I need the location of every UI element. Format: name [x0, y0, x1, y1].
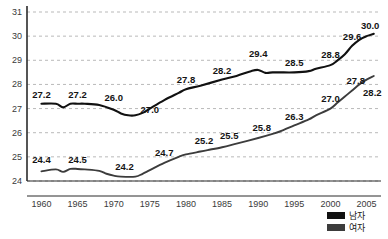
x-tick-label: 1975: [131, 199, 169, 209]
y-tick-label: 24: [2, 176, 22, 186]
data-label-female: 25.5: [212, 131, 246, 141]
data-label-female: 27.8: [339, 76, 373, 86]
data-label-male: 28.8: [313, 50, 347, 60]
data-label-male: 27.2: [61, 90, 95, 100]
x-tick-label: 1985: [203, 199, 241, 209]
data-label-male: 27.0: [133, 105, 167, 115]
y-tick-label: 26: [2, 128, 22, 138]
x-tick-label: 2005: [348, 199, 386, 209]
data-label-female: 27.0: [313, 94, 347, 104]
data-label-female: 24.7: [147, 148, 181, 158]
x-tick-label: 1970: [95, 199, 133, 209]
legend-label: 남자: [349, 211, 365, 221]
data-label-male: 27.8: [169, 75, 203, 85]
legend-label: 여자: [349, 223, 365, 233]
data-label-female: 24.4: [24, 155, 58, 165]
data-label-female: 24.2: [108, 162, 142, 172]
y-tick-label: 30: [2, 31, 22, 41]
x-tick-label: 1965: [59, 199, 97, 209]
legend-item[interactable]: 남자: [327, 210, 385, 221]
y-tick-label: 31: [2, 7, 22, 17]
y-tick-label: 25: [2, 152, 22, 162]
chart-legend: 남자여자: [327, 210, 385, 234]
x-tick-label: 1990: [239, 199, 277, 209]
x-tick-label: 1995: [275, 199, 313, 209]
data-label-female: 28.2: [355, 88, 388, 98]
y-tick-label: 29: [2, 55, 22, 65]
data-label-male: 28.5: [277, 58, 311, 68]
legend-item[interactable]: 여자: [327, 222, 385, 233]
data-label-male: 30.0: [353, 21, 387, 31]
data-label-female: 26.3: [277, 112, 311, 122]
legend-swatch: [327, 224, 345, 231]
x-tick-label: 2000: [311, 199, 349, 209]
data-label-male: 29.6: [335, 32, 369, 42]
legend-swatch: [327, 212, 345, 219]
data-label-female: 24.5: [61, 155, 95, 165]
y-tick-label: 28: [2, 79, 22, 89]
y-tick-label: 27: [2, 104, 22, 114]
data-label-male: 27.2: [24, 90, 58, 100]
x-tick-label: 1960: [22, 199, 60, 209]
line-chart: 3130292827262524 19601965197019751980198…: [0, 0, 388, 239]
data-label-male: 28.2: [205, 66, 239, 76]
data-label-male: 26.0: [97, 93, 131, 103]
x-tick-label: 1980: [167, 199, 205, 209]
data-label-female: 25.8: [245, 123, 279, 133]
data-label-male: 29.4: [241, 49, 275, 59]
